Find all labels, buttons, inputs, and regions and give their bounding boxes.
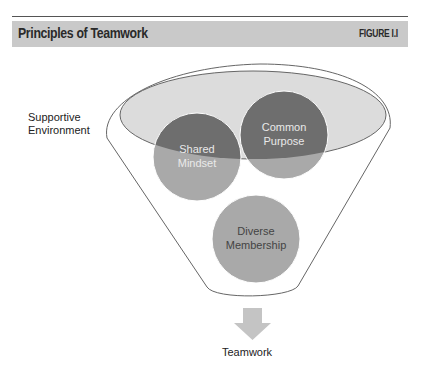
- diverse-membership-label: Diverse Membership: [216, 224, 296, 252]
- environment-label: Supportive Environment: [28, 111, 90, 137]
- teamwork-funnel-diagram: [0, 0, 425, 375]
- shared-mindset-label: Shared Mindset: [157, 142, 237, 170]
- down-arrow-icon: [234, 308, 271, 340]
- common-purpose-label: Common Purpose: [244, 120, 324, 148]
- teamwork-label: Teamwork: [222, 346, 272, 359]
